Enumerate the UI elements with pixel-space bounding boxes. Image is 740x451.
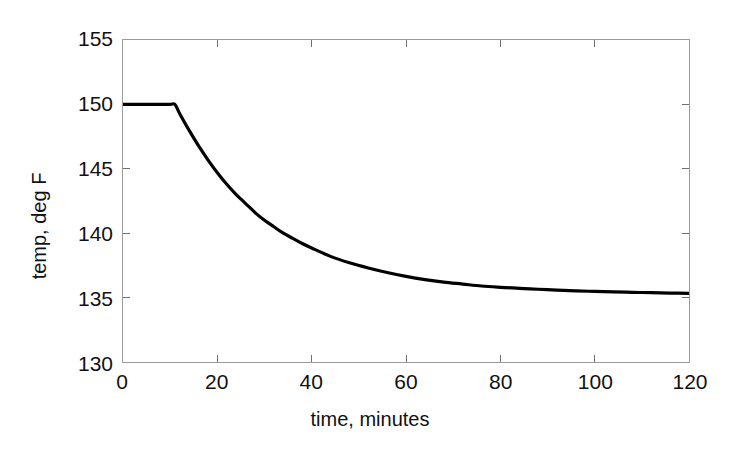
- y-tick-label-145: 145: [78, 158, 113, 179]
- chart-figure: 155 150 145 140 135 130: [0, 0, 740, 451]
- data-series-temperature: [123, 104, 689, 294]
- y-tick-label-135: 135: [78, 288, 113, 309]
- x-tick-label-20: 20: [205, 371, 228, 392]
- x-tick-label-60: 60: [394, 371, 417, 392]
- x-tick-label-100: 100: [578, 371, 613, 392]
- x-axis-title: time, minutes: [0, 408, 740, 430]
- y-tick-label-150: 150: [78, 93, 113, 114]
- axis-ticks: [123, 40, 689, 362]
- x-tick-label-0: 0: [116, 371, 128, 392]
- plot-area: [122, 39, 690, 363]
- y-tick-label-155: 155: [78, 28, 113, 49]
- y-tick-label-140: 140: [78, 223, 113, 244]
- x-tick-label-80: 80: [489, 371, 512, 392]
- y-axis-title-wrapper: temp, deg F: [22, 0, 56, 451]
- x-tick-label-40: 40: [300, 371, 323, 392]
- x-tick-label-120: 120: [672, 371, 707, 392]
- x-axis-tick-labels: 0 20 40 60 80 100 120: [0, 371, 740, 401]
- plot-svg: [123, 40, 689, 362]
- y-axis-title: temp, deg F: [28, 172, 50, 279]
